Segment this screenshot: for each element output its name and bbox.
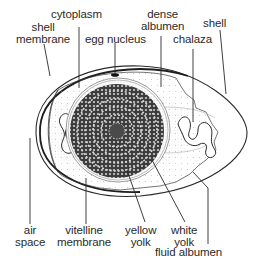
label-dense-albumen: dense albumen [141,9,184,32]
label-cytoplasm: cytoplasm [51,9,102,21]
label-text: membrane [16,34,70,46]
label-text: egg nucleus [85,34,146,46]
label-text: yellow [125,225,156,237]
label-air-space: air space [15,225,45,248]
label-text: cytoplasm [51,9,102,21]
label-text: white [171,225,197,237]
label-text: albumen [141,21,184,33]
label-text: membrane [57,237,111,249]
label-text: shell [203,18,226,30]
label-chalaza: chalaza [173,34,212,46]
label-text: vitelline [57,225,111,237]
label-vitelline-membrane: vitelline membrane [57,225,111,248]
label-text: fluid albumen [155,247,222,259]
label-text: yolk [125,237,156,249]
label-egg-nucleus: egg nucleus [85,34,146,46]
yolk [70,84,164,178]
label-text: space [15,237,45,249]
label-fluid-albumen: fluid albumen [155,247,222,259]
label-text: air [15,225,45,237]
label-text: shell [16,22,70,34]
label-shell: shell [203,18,226,30]
label-shell-membrane: shell membrane [16,22,70,45]
label-yellow-yolk: yellow yolk [125,225,156,248]
label-white-yolk: white yolk [171,225,197,248]
label-text: chalaza [173,34,212,46]
label-text: dense [141,9,184,21]
